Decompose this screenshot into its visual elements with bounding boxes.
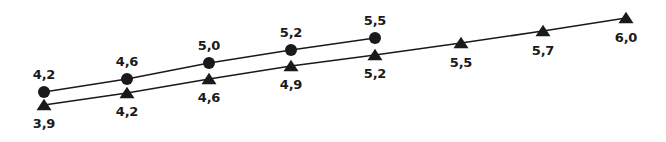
data-point-circle	[38, 86, 50, 98]
data-point-label: 4,2	[116, 105, 138, 118]
data-point-circle	[203, 57, 215, 69]
data-point-label: 5,2	[280, 26, 302, 39]
data-point-circle	[285, 44, 297, 56]
data-point-label: 5,2	[364, 67, 386, 80]
data-point-circle	[369, 32, 381, 44]
data-point-label: 3,9	[33, 117, 55, 130]
data-point-label: 4,6	[198, 91, 220, 104]
data-point-label: 6,0	[615, 31, 637, 44]
data-point-label: 5,5	[450, 56, 472, 69]
data-point-label: 5,0	[198, 39, 220, 52]
chart-plot-area	[0, 0, 666, 142]
data-point-circle	[121, 73, 133, 85]
data-point-label: 5,5	[364, 14, 386, 27]
data-point-label: 4,2	[33, 68, 55, 81]
line-chart: 4,24,65,05,25,53,94,24,64,95,25,55,76,0	[0, 0, 666, 142]
data-point-triangle	[619, 12, 634, 23]
data-point-label: 5,7	[532, 44, 554, 57]
data-point-label: 4,6	[116, 55, 138, 68]
data-point-label: 4,9	[280, 78, 302, 91]
